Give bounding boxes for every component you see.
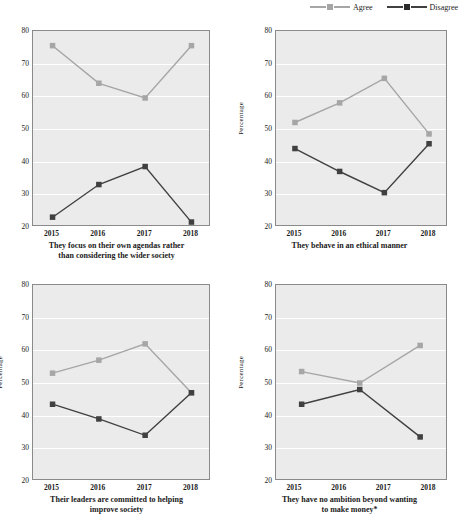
y-axis-tick: 50 [254,378,272,387]
data-point-disagree [189,390,195,396]
data-point-agree [337,100,343,106]
y-axis-tick: 70 [11,312,29,321]
plot-area [32,284,210,480]
x-axis-tick: 2015 [35,229,69,238]
x-axis-tick: 2015 [277,229,311,238]
y-axis-tick: 60 [11,345,29,354]
panel-caption: They focus on their own agendas ratherth… [0,241,233,261]
series-layer [33,285,210,480]
y-axis-tick: 70 [254,58,272,67]
legend-line-disagree-right [411,6,427,8]
y-axis-tick: 50 [254,124,272,133]
y-axis-tick: 30 [254,443,272,452]
y-axis-tick: 20 [254,476,272,485]
series-line-agree [53,344,192,393]
x-axis-tick: 2016 [81,229,115,238]
legend-marker-disagree [404,4,410,10]
x-axis-tick: 2015 [277,483,311,492]
x-axis-tick: 2017 [127,483,161,492]
data-point-disagree [50,214,56,220]
x-axis-tick: 2017 [366,483,400,492]
x-axis-tick: 2017 [366,229,400,238]
data-point-agree [96,357,102,363]
y-axis-tick: 60 [254,91,272,100]
plot-area [275,284,447,480]
y-axis-tick: 40 [11,156,29,165]
y-axis-tick: 30 [11,443,29,452]
y-axis-tick: 20 [11,222,29,231]
data-point-disagree [142,433,148,439]
y-axis-tick: 80 [254,280,272,289]
x-axis-tick: 2016 [322,229,356,238]
data-point-agree [417,343,423,349]
data-point-disagree [357,387,363,393]
legend-line-disagree [387,6,403,8]
x-axis-tick: 2016 [322,483,356,492]
data-point-disagree [50,402,56,408]
legend-marker-agree [327,4,333,10]
y-axis-tick: 30 [254,189,272,198]
y-axis-tick: 80 [11,26,29,35]
series-line-disagree [295,144,429,193]
plot-area [275,30,447,226]
x-axis-tick: 2018 [411,483,445,492]
y-axis-tick: 80 [11,280,29,289]
data-point-agree [96,81,102,87]
series-line-agree [302,345,421,383]
y-axis-tick: 70 [11,58,29,67]
y-axis-tick: 20 [11,476,29,485]
data-point-agree [142,341,148,347]
panel-caption-line2: than considering the wider society [0,251,233,261]
data-point-disagree [299,402,305,408]
panel-caption-line2: to make money* [233,505,466,515]
y-axis-label: Percentage [237,356,245,389]
data-point-agree [50,43,56,49]
series-line-disagree [53,393,192,436]
panel-caption: They behave in an ethical manner [233,241,466,251]
y-axis-label: Percentage [0,356,4,389]
x-axis-tick: 2015 [35,483,69,492]
x-axis-tick: 2018 [173,229,207,238]
y-axis-tick: 50 [11,124,29,133]
y-axis-tick: 50 [11,378,29,387]
y-axis-tick: 40 [254,156,272,165]
x-axis-tick: 2016 [81,483,115,492]
data-point-agree [142,95,148,101]
y-axis-tick: 30 [11,189,29,198]
panel-caption-line1: They have no ambition beyond wanting [233,495,466,505]
panel-caption: Their leaders are committed to helpingim… [0,495,233,515]
data-point-disagree [142,164,148,170]
chart-grid: 203040506070802015201620172018They focus… [0,14,466,522]
legend-label-disagree: Disagree [430,3,458,12]
data-point-agree [292,120,298,126]
panel-caption-line2: improve society [0,505,233,515]
y-axis-tick: 60 [11,91,29,100]
series-line-disagree [302,390,421,437]
y-axis-tick: 20 [254,222,272,231]
legend-item-disagree: Disagree [387,3,458,12]
data-point-agree [426,131,432,137]
data-point-disagree [382,190,388,196]
data-point-agree [357,380,363,386]
panel-caption-line1: They focus on their own agendas rather [0,241,233,251]
data-point-agree [382,76,388,82]
legend-item-agree: Agree [310,3,373,12]
x-axis-tick: 2018 [173,483,207,492]
y-axis-tick: 40 [11,410,29,419]
panel-caption-line1: They behave in an ethical manner [233,241,466,251]
x-axis-tick: 2017 [127,229,161,238]
series-line-agree [295,78,429,133]
data-point-disagree [337,169,343,175]
y-axis-label: Percentage [237,102,245,135]
data-point-agree [299,369,305,375]
x-axis-tick: 2018 [411,229,445,238]
y-axis-tick: 60 [254,345,272,354]
data-point-disagree [292,146,298,152]
plot-area [32,30,210,226]
data-point-agree [50,370,56,376]
series-layer [33,31,210,226]
panel-caption: They have no ambition beyond wantingto m… [233,495,466,515]
panel-agendas: 203040506070802015201620172018They focus… [0,14,233,268]
legend-line-agree-right [334,6,350,8]
data-point-disagree [189,219,195,225]
